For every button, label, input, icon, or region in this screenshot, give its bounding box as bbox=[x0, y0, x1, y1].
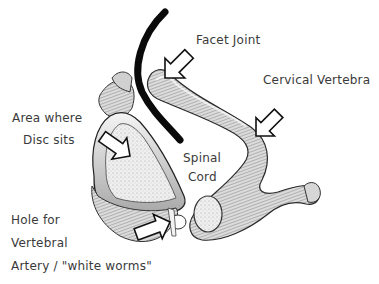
spinal-cord-label-line2: Cord bbox=[188, 171, 217, 183]
artery-hole-label-line3: Artery / "white worms" bbox=[11, 260, 152, 272]
facet-joint-label: Facet Joint bbox=[196, 34, 260, 46]
artery-hole-label-line2: Vertebral bbox=[11, 237, 68, 249]
transverse-process-left bbox=[99, 72, 134, 117]
vertebra-diagram: Facet Joint Cervical Vertebra Area where… bbox=[0, 0, 379, 284]
cervical-vertebra-label: Cervical Vertebra bbox=[263, 74, 370, 86]
disc-area-label-line2: Disc sits bbox=[23, 134, 75, 146]
disc-area-label-line1: Area where bbox=[12, 112, 82, 124]
artery-hole-label-line1: Hole for bbox=[11, 214, 60, 226]
spinal-cord-label-line1: Spinal bbox=[183, 152, 221, 164]
